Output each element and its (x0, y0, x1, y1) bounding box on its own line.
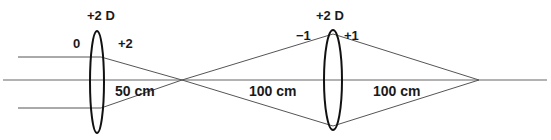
distance-lens1-focus: 50 cm (115, 84, 155, 98)
lens2-right-vergence: +1 (344, 29, 359, 42)
lens2-power-label: +2 D (316, 9, 344, 22)
distance-focus-lens2: 100 cm (249, 84, 296, 98)
lens-1 (90, 31, 104, 133)
optics-diagram (0, 0, 551, 140)
lens2-left-vergence: −1 (296, 29, 311, 42)
distance-lens2-image: 100 cm (373, 84, 420, 98)
lens1-left-vergence: 0 (73, 37, 80, 50)
lens1-right-vergence: +2 (118, 37, 133, 50)
refracted-ray-top-1 (101, 57, 182, 80)
lens1-power-label: +2 D (87, 9, 115, 22)
